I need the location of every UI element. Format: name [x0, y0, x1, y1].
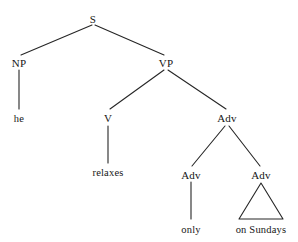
tree-node-s: S	[90, 14, 96, 25]
edge-adv-to-adv-right	[229, 126, 260, 166]
edge-s-to-vp	[95, 25, 164, 55]
edge-vp-to-adv	[168, 70, 226, 109]
tree-node-np: NP	[12, 58, 26, 69]
tree-node-adv-right: Adv	[251, 170, 271, 181]
edge-vp-to-v	[110, 70, 164, 109]
tree-leaf-relaxes: relaxes	[92, 167, 123, 178]
edge-adv-to-adv-left	[192, 126, 225, 166]
syntax-tree-figure: S NP VP he V Adv relaxes Adv Adv only on…	[0, 0, 298, 242]
tree-node-adv-left: Adv	[181, 170, 201, 181]
on-sundays-triangle-icon	[239, 183, 283, 219]
tree-leaf-on-sundays: on Sundays	[236, 224, 287, 235]
tree-leaf-he: he	[14, 113, 24, 124]
tree-node-v: V	[104, 113, 112, 124]
tree-node-adv-top: Adv	[217, 113, 237, 124]
tree-leaf-only: only	[181, 224, 200, 235]
edge-s-to-np	[21, 25, 92, 55]
tree-node-vp: VP	[159, 58, 173, 69]
tree-edges-layer	[0, 0, 298, 242]
